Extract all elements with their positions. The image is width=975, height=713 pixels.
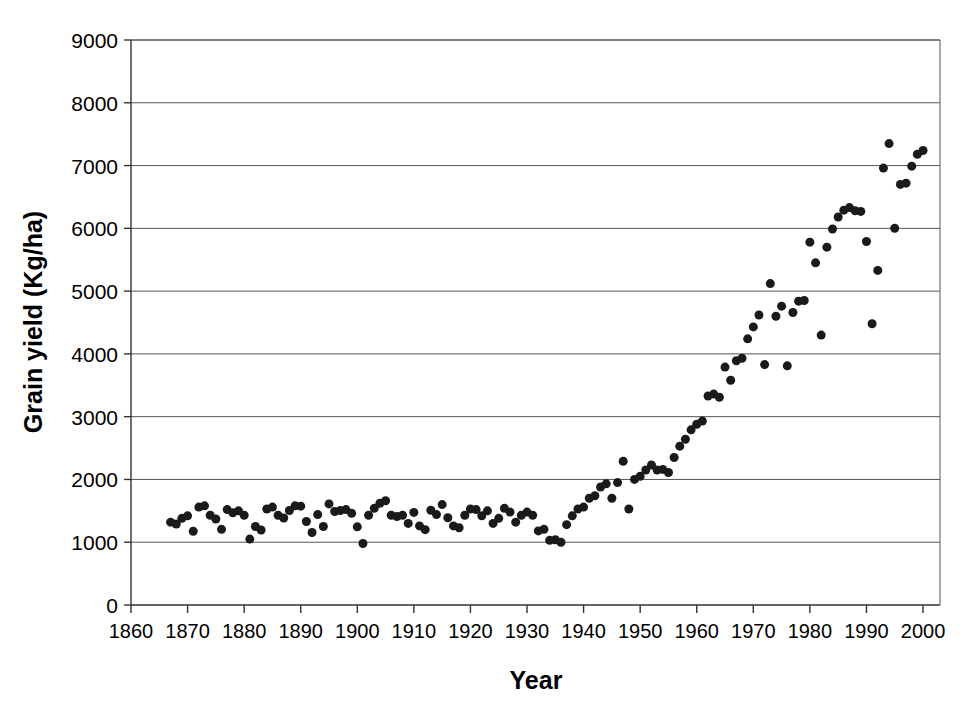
- data-point: [562, 520, 571, 529]
- data-point: [760, 360, 769, 369]
- x-axis-ticks: [131, 605, 923, 613]
- data-point: [432, 510, 441, 519]
- data-point: [364, 511, 373, 520]
- y-axis-title: Grain yield (Kg/ha): [19, 211, 47, 433]
- data-point: [749, 322, 758, 331]
- data-point: [455, 523, 464, 532]
- data-point: [296, 502, 305, 511]
- y-tick-label-0: 0: [106, 594, 118, 617]
- data-point: [211, 514, 220, 523]
- data-point: [817, 331, 826, 340]
- data-point: [257, 525, 266, 534]
- x-tick-label-1970: 1970: [731, 620, 776, 642]
- y-tick-label-5000: 5000: [71, 280, 118, 303]
- data-point: [919, 146, 928, 155]
- data-point: [438, 500, 447, 509]
- x-tick-label-1990: 1990: [844, 620, 889, 642]
- data-point: [834, 213, 843, 222]
- data-point: [189, 527, 198, 536]
- data-point: [862, 237, 871, 246]
- data-point: [568, 511, 577, 520]
- data-point: [347, 509, 356, 518]
- data-point: [902, 179, 911, 188]
- x-tick-label-1900: 1900: [335, 620, 380, 642]
- data-point: [602, 479, 611, 488]
- y-tick-label-9000: 9000: [71, 29, 118, 52]
- data-point: [670, 453, 679, 462]
- data-point: [353, 522, 362, 531]
- y-tick-label-6000: 6000: [71, 217, 118, 240]
- data-point: [308, 528, 317, 537]
- data-point: [511, 518, 520, 527]
- x-tick-label-1940: 1940: [561, 620, 606, 642]
- data-point: [590, 491, 599, 500]
- y-tick-label-4000: 4000: [71, 343, 118, 366]
- data-point: [664, 468, 673, 477]
- data-point: [754, 310, 763, 319]
- data-point: [528, 511, 537, 520]
- data-point: [381, 496, 390, 505]
- x-tick-label-1980: 1980: [788, 620, 833, 642]
- x-tick-label-1950: 1950: [618, 620, 663, 642]
- data-point: [624, 504, 633, 513]
- data-point: [302, 517, 311, 526]
- data-point: [907, 162, 916, 171]
- data-point: [783, 361, 792, 370]
- data-point: [607, 494, 616, 503]
- y-axis-ticks: [124, 40, 131, 605]
- x-tick-label-1880: 1880: [222, 620, 267, 642]
- data-point: [721, 363, 730, 372]
- data-point: [319, 522, 328, 531]
- data-point: [494, 514, 503, 523]
- data-point: [268, 503, 277, 512]
- x-axis-tick-labels: 1860187018801890190019101920193019401950…: [109, 620, 946, 642]
- y-tick-label-1000: 1000: [71, 531, 118, 554]
- x-tick-label-1870: 1870: [165, 620, 210, 642]
- x-tick-label-1930: 1930: [505, 620, 550, 642]
- data-point: [890, 224, 899, 233]
- x-tick-label-1890: 1890: [278, 620, 323, 642]
- data-point: [737, 354, 746, 363]
- data-point: [771, 312, 780, 321]
- data-point: [777, 302, 786, 311]
- data-point: [698, 417, 707, 426]
- data-point: [217, 525, 226, 534]
- data-point: [885, 139, 894, 148]
- data-point: [539, 525, 548, 534]
- data-point: [279, 514, 288, 523]
- data-point: [715, 393, 724, 402]
- chart-page: 0100020003000400050006000700080009000 18…: [0, 0, 975, 713]
- data-point: [868, 319, 877, 328]
- data-point: [619, 457, 628, 466]
- x-tick-label-1860: 1860: [109, 620, 154, 642]
- data-point: [879, 164, 888, 173]
- x-tick-label-1920: 1920: [448, 620, 493, 642]
- data-point: [675, 442, 684, 451]
- data-point: [805, 238, 814, 247]
- data-point: [183, 511, 192, 520]
- data-point: [766, 279, 775, 288]
- data-point: [788, 308, 797, 317]
- data-point: [556, 538, 565, 547]
- data-point: [828, 224, 837, 233]
- data-point: [404, 519, 413, 528]
- gridlines: [131, 40, 940, 542]
- data-point: [313, 510, 322, 519]
- data-point: [873, 266, 882, 275]
- data-point: [421, 525, 430, 534]
- x-tick-label-1910: 1910: [392, 620, 437, 642]
- x-axis-title: Year: [510, 666, 563, 694]
- data-point: [743, 334, 752, 343]
- data-point-group: [166, 139, 927, 548]
- data-point: [200, 501, 209, 510]
- data-point: [811, 258, 820, 267]
- x-tick-label-2000: 2000: [901, 620, 946, 642]
- data-point: [245, 535, 254, 544]
- y-tick-label-8000: 8000: [71, 92, 118, 115]
- data-point: [483, 506, 492, 515]
- data-point: [800, 296, 809, 305]
- data-point: [443, 513, 452, 522]
- data-point: [822, 243, 831, 252]
- plot-frame: [131, 40, 940, 605]
- data-point: [409, 508, 418, 517]
